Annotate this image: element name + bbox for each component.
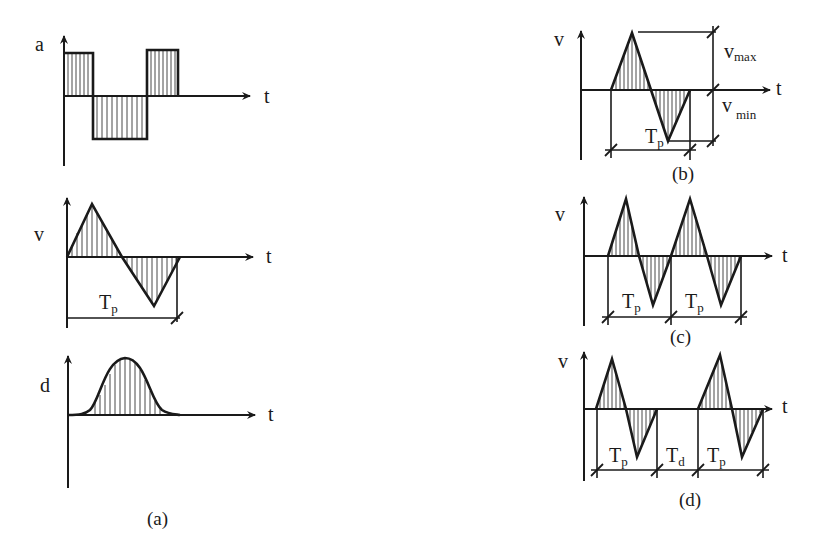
square-wave-curve [64,50,178,139]
panel-b-caption: (b) [672,163,694,185]
period-label: Tp [99,291,118,316]
hatch-fill [600,360,760,455]
panel-a-bell-pulse-plot: d t (a) [40,356,274,530]
panel-a-square-wave-plot: a t [35,33,270,166]
vmax-label: vmax [724,40,757,64]
interval-label-1: Tp [609,444,628,469]
panel-a-triangle-wave-plot: v t Tp [34,198,272,328]
period-label-2: Tp [685,290,704,315]
y-axis-label: v [34,223,44,245]
waveform-diagram: a t v t Tp [0,0,820,544]
y-axis-label: v [554,28,564,50]
hatch-fill [72,205,176,303]
x-axis-label: t [782,395,788,417]
y-axis-label: a [35,33,44,55]
x-axis-label: t [776,77,782,99]
period-label: Tp [645,125,664,150]
vmin-label: vmin [722,94,757,122]
panel-d-plot: v t Tp Td Tp (d) [558,350,788,511]
panel-c-caption: (c) [670,326,691,348]
interval-label-3: Tp [707,444,726,469]
x-axis-label: t [264,85,270,107]
hatch-fill [68,50,175,139]
panel-c-plot: v t Tp Tp (c) [555,197,788,348]
y-axis-label: v [558,350,568,372]
panel-b-plot: v t vmax vmin Tp (b) [554,26,782,185]
panel-d-caption: (d) [679,489,701,511]
y-axis-label: v [555,203,565,225]
x-axis-label: t [782,244,788,266]
panel-a-caption: (a) [147,508,168,530]
period-label-1: Tp [622,290,641,315]
pulse-2-curve [698,355,763,457]
bell-pulse-curve [68,358,180,415]
y-axis-label: d [40,374,50,396]
interval-label-dead-time: Td [666,444,685,469]
triangle-wave-curve [67,204,180,306]
x-axis-label: t [268,403,274,425]
x-axis-label: t [266,245,272,267]
